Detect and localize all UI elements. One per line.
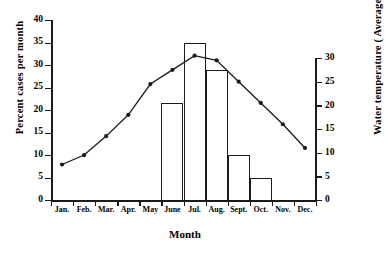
line-series (0, 0, 386, 254)
line-data-point (104, 134, 108, 138)
line-data-point (237, 80, 241, 84)
line-data-point (259, 101, 263, 105)
x-axis-title: Month (120, 228, 250, 240)
chart-figure: 40 35 30 25 20 15 10 5 0 30 25 20 15 10 … (0, 0, 386, 254)
y-axis-right-title: Water temperature ( Average ) (372, 0, 383, 156)
line-data-point (170, 68, 174, 72)
x-axis-tick-label: Dec. (288, 205, 322, 214)
line-data-point (215, 58, 219, 62)
line-data-point (303, 146, 307, 150)
line-data-point (148, 82, 152, 86)
line-data-point (82, 153, 86, 157)
line-data-point (281, 122, 285, 126)
line-data-point (192, 54, 196, 58)
line-data-point (60, 162, 64, 166)
line-data-point (126, 113, 130, 117)
y-axis-left-title: Percent cases per month (14, 0, 25, 158)
